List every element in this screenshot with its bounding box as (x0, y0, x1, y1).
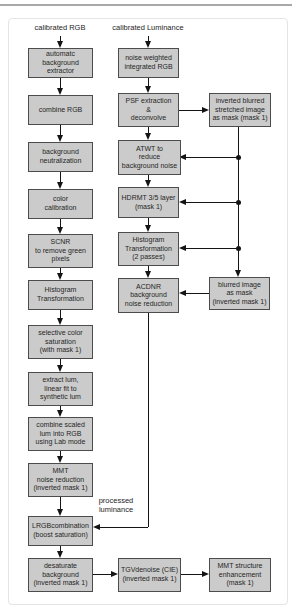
flow-line (185, 293, 209, 294)
flow-line (99, 527, 148, 528)
node-mmt_noise: MMT noise reduction (inverted mask 1) (28, 463, 93, 497)
arrowhead-down-icon (57, 88, 63, 95)
arrowhead-left-icon (179, 290, 186, 296)
node-atwt: ATWT to reduce background noise (118, 140, 181, 175)
junction-dot (236, 155, 241, 160)
page: calibrated RGB calibrated Luminance proc… (0, 0, 296, 609)
junction-dot (236, 200, 241, 205)
arrowhead-down-icon (145, 86, 151, 93)
flow-line (185, 248, 238, 249)
node-psf: PSF extraction & deconvolve (118, 93, 179, 127)
node-selective_color: selective color saturation (with mask 1) (28, 325, 93, 359)
arrowhead-right-icon (202, 107, 209, 113)
node-abe: automatc background extractor (28, 48, 93, 78)
arrowhead-down-icon (57, 456, 63, 463)
arrowhead-left-icon (93, 524, 100, 530)
arrowhead-down-icon (57, 318, 63, 325)
arrowhead-down-icon (57, 551, 63, 558)
input-label-calibrated-luminance: calibrated Luminance (106, 23, 190, 32)
arrowhead-right-icon (111, 571, 118, 577)
arrowhead-down-icon (57, 273, 63, 280)
node-lrgb: LRGBcombination (boost saturation) (28, 516, 93, 546)
node-ht2: Histogram Transformation (2 passes) (118, 232, 179, 266)
node-histogram_transformation: Histogram Transformation (28, 280, 93, 310)
node-combine_rgb: combine RGB (28, 95, 93, 125)
arrowhead-down-icon (145, 271, 151, 278)
node-combine_scaled: combine scaled lum into RGB using Lab mo… (28, 417, 93, 451)
node-hdrmt: HDRMT 3/5 layer (mask 1) (118, 187, 179, 218)
flow-line (185, 157, 238, 158)
node-ibsi: inverted blurred stretched image as mask… (209, 93, 271, 127)
node-nwir: noise weighted integrated RGB (118, 48, 179, 78)
arrowhead-left-icon (179, 245, 186, 251)
node-desaturate: desaturate background (inverted mask 1) (28, 558, 93, 592)
arrowhead-down-icon (57, 509, 63, 516)
node-mmt_structure: MMT structure enhancement (mask 1) (209, 558, 271, 592)
arrowhead-down-icon (145, 41, 151, 48)
arrowhead-down-icon (145, 180, 151, 187)
flow-line (185, 202, 238, 203)
arrowhead-down-icon (145, 133, 151, 140)
arrowhead-left-icon (179, 199, 186, 205)
node-acdnr: ACDNR background noise reduction (118, 278, 179, 313)
node-blurred: blurred image as mask (inverted mask 1) (209, 277, 270, 310)
flow-line (148, 313, 149, 527)
edge-label-processed-luminance: processed luminance (88, 496, 144, 515)
flow-line (93, 574, 112, 575)
arrowhead-down-icon (235, 270, 241, 277)
flow-line (179, 574, 203, 575)
arrowhead-down-icon (145, 225, 151, 232)
input-label-calibrated-rgb: calibrated RGB (18, 23, 102, 32)
node-extract_lum: extract lum, linear fit to synthetic lum (28, 372, 93, 406)
arrowhead-down-icon (57, 182, 63, 189)
arrowhead-down-icon (57, 410, 63, 417)
page-top-rule (0, 4, 292, 6)
flow-line (179, 110, 203, 111)
arrowhead-down-icon (57, 135, 63, 142)
junction-dot (236, 246, 241, 251)
node-color_calibration: color calibration (28, 189, 93, 219)
node-tgv: TGVdenoise (CIE) (inverted mask 1) (118, 558, 181, 592)
arrowhead-down-icon (57, 41, 63, 48)
node-bg_neutralization: background neutralization (28, 142, 93, 172)
arrowhead-down-icon (57, 227, 63, 234)
node-scnr: SCNR to remove green pixels (28, 234, 93, 268)
arrowhead-down-icon (57, 365, 63, 372)
arrowhead-right-icon (202, 571, 209, 577)
